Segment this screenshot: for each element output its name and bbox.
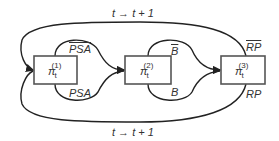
node-label-2: πt(2) xyxy=(140,63,158,80)
node-label-3: πt(3) xyxy=(235,63,253,80)
b-label: B xyxy=(171,87,178,98)
psa-bar-label: PSA xyxy=(69,44,91,55)
top-loop-label: t → t + 1 xyxy=(112,8,154,19)
node-label-1: πt(1) xyxy=(48,63,66,80)
psa-label: PSA xyxy=(69,88,91,99)
rp-bar-label: RP xyxy=(246,42,261,53)
bottom-loop-label: t → t + 1 xyxy=(112,127,154,138)
state-transition-diagram: πt(1) πt(2) πt(3) t → t + 1 t → t + 1 PS… xyxy=(0,0,279,141)
rp-label: RP xyxy=(246,89,261,100)
b-bar-label: B xyxy=(171,46,178,57)
